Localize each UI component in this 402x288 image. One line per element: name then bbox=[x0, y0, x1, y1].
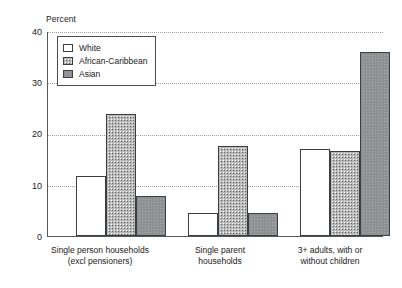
bar-group1-white bbox=[76, 176, 106, 236]
y-tick-0: 0 bbox=[14, 232, 42, 242]
x-axis-label-group1: Single person households (excl pensioner… bbox=[30, 245, 170, 267]
legend-item-asian: Asian bbox=[63, 68, 148, 80]
bar-group3-african-caribbean bbox=[330, 151, 360, 236]
x-axis-label-group1-line1: Single person households bbox=[30, 245, 170, 256]
y-tick-10: 10 bbox=[14, 181, 42, 191]
bar-group3-white bbox=[300, 149, 330, 236]
legend-label-asian: Asian bbox=[79, 69, 100, 79]
x-axis-label-group3-line2: without children bbox=[265, 256, 395, 267]
y-tick-40: 40 bbox=[14, 27, 42, 37]
bar-group1-asian bbox=[136, 196, 166, 236]
bar-chart-figure: Percent 40 30 20 10 0 bbox=[0, 0, 402, 288]
bar-group2-asian bbox=[248, 213, 278, 236]
bar-group1-african-caribbean bbox=[106, 114, 136, 236]
bar-group2-white bbox=[188, 213, 218, 236]
x-axis-label-group3: 3+ adults, with or without children bbox=[265, 245, 395, 267]
legend-swatch-asian-icon bbox=[63, 70, 73, 78]
legend-label-african-caribbean: African-Caribbean bbox=[79, 56, 148, 66]
bar-group3-asian bbox=[360, 52, 390, 237]
legend-item-white: White bbox=[63, 42, 148, 54]
x-axis-label-group3-line1: 3+ adults, with or bbox=[265, 245, 395, 256]
legend-swatch-african-caribbean-icon bbox=[63, 57, 73, 65]
bar-group2-african-caribbean bbox=[218, 146, 248, 236]
legend-item-african-caribbean: African-Caribbean bbox=[63, 55, 148, 67]
y-tick-30: 30 bbox=[14, 78, 42, 88]
x-axis-label-group1-line2: (excl pensioners) bbox=[30, 256, 170, 267]
legend-label-white: White bbox=[79, 43, 101, 53]
legend-swatch-white-icon bbox=[63, 44, 73, 52]
y-tick-20: 20 bbox=[14, 129, 42, 139]
chart-legend: White African-Caribbean Asian bbox=[57, 36, 156, 86]
